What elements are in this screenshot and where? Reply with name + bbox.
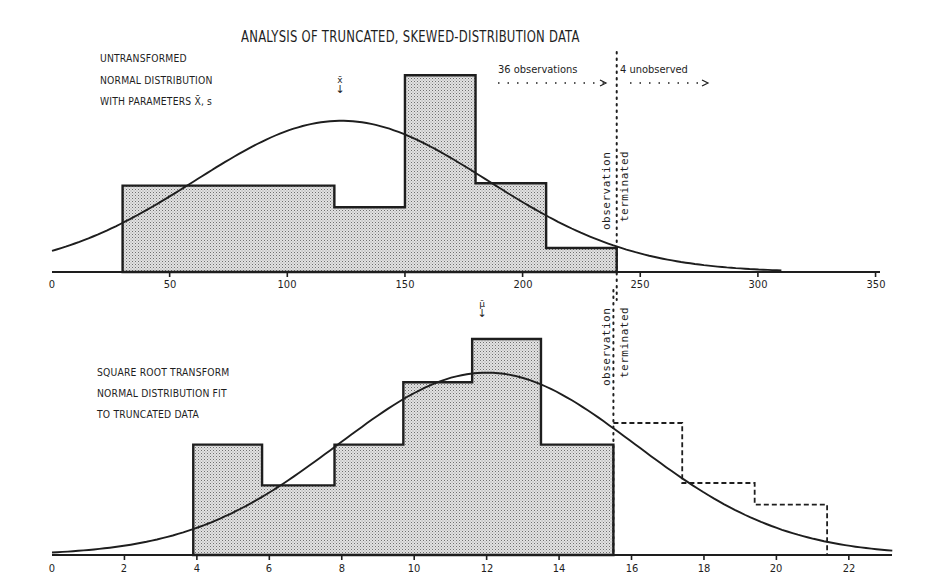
projected-unobserved-bins [613, 423, 827, 555]
top-note-line-1: UNTRANSFORMED [100, 52, 187, 64]
x-tick-label: 150 [395, 278, 414, 291]
x-tick-label: 6 [266, 562, 272, 575]
unobserved-count-label: 4 unobserved [620, 63, 688, 76]
x-tick-label: 200 [513, 278, 532, 291]
down-arrow-icon: ↓ [335, 83, 344, 96]
x-tick-label: 10 [408, 562, 421, 575]
x-tick-label: 350 [866, 278, 885, 291]
x-tick-label: 250 [631, 278, 650, 291]
x-tick-label: 8 [339, 562, 345, 575]
x-tick-label: 50 [163, 278, 176, 291]
x-tick-label: 0 [49, 562, 55, 575]
x-tick-label: 100 [278, 278, 297, 291]
x-tick-label: 22 [843, 562, 856, 575]
bottom-note-line-2: NORMAL DISTRIBUTION FIT [97, 387, 227, 399]
x-tick-label: 20 [770, 562, 783, 575]
x-tick-label: 0 [49, 278, 55, 291]
x-tick-label: 12 [480, 562, 493, 575]
top-note-line-2: NORMAL DISTRIBUTION [100, 74, 212, 86]
bottom-note-line-1: SQUARE ROOT TRANSFORM [97, 366, 229, 378]
bottom-histogram-chart [52, 290, 892, 560]
bottom-note-line-3: TO TRUNCATED DATA [97, 408, 199, 420]
x-tick-label: 18 [698, 562, 711, 575]
x-tick-label: 2 [121, 562, 127, 575]
top-note-line-3: WITH PARAMETERS X̄, s [100, 95, 212, 107]
x-tick-label: 16 [625, 562, 638, 575]
x-tick-label: 14 [553, 562, 566, 575]
top-histogram-chart [52, 52, 880, 300]
plot-canvas [0, 0, 939, 581]
bottom-mean-marker: μ̄ ↓ [477, 300, 486, 319]
top-cutoff-label-terminated: terminated [618, 151, 631, 222]
top-cutoff-label-observation: observation [600, 152, 613, 230]
histogram-bars [193, 339, 613, 555]
bottom-cutoff-label-observation: observation [600, 308, 613, 386]
x-tick-label: 4 [194, 562, 200, 575]
top-mean-marker: x̄ ↓ [335, 76, 344, 95]
x-tick-label: 300 [748, 278, 767, 291]
arrow-right-icon [702, 80, 708, 86]
bottom-cutoff-label-terminated: terminated [618, 307, 631, 378]
observed-count-label: 36 observations [498, 63, 577, 76]
down-arrow-icon: ↓ [477, 307, 486, 320]
figure: ANALYSIS OF TRUNCATED, SKEWED-DISTRIBUTI… [0, 0, 939, 581]
figure-title: ANALYSIS OF TRUNCATED, SKEWED-DISTRIBUTI… [241, 28, 580, 46]
